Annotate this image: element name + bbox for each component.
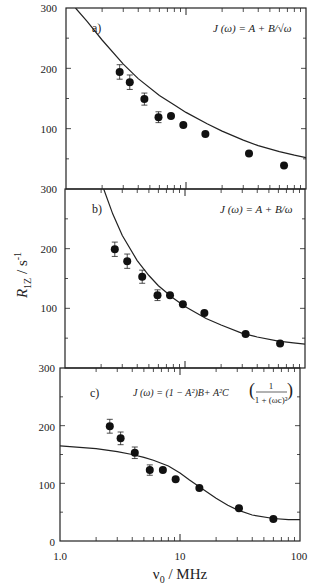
panel-c-formula: J (ω) = (1 − A²)B+ A²C	[133, 387, 229, 399]
ytick-c-100: 100	[39, 479, 56, 491]
fit-curve	[60, 446, 300, 520]
ytick-a-300: 300	[41, 2, 58, 14]
panel-c-paren-right: )	[287, 380, 293, 401]
panel-b-label: b)	[92, 202, 102, 216]
x-axis-title: ν0 / MHz	[153, 566, 208, 585]
xtick-100: 100	[291, 550, 308, 562]
data-point	[245, 149, 253, 157]
data-point	[117, 434, 125, 442]
data-point	[195, 484, 203, 492]
ytick-c-200: 200	[39, 421, 56, 433]
panel-c-frac-num: 1	[269, 381, 274, 391]
data-point	[166, 291, 174, 299]
ytick-b-100: 100	[41, 302, 58, 314]
data-point	[242, 330, 250, 338]
data-point	[138, 273, 146, 281]
data-point	[106, 422, 114, 430]
ytick-a-100: 100	[41, 123, 58, 135]
data-point	[126, 78, 134, 86]
data-point	[201, 130, 209, 138]
data-point	[111, 245, 119, 253]
data-point	[123, 257, 131, 265]
data-point	[131, 449, 139, 457]
panel-c-frac-den: 1 + (ωc)²	[255, 395, 288, 405]
data-point	[276, 340, 284, 348]
panel-c-label: c)	[90, 386, 99, 400]
xtick-10: 10	[175, 550, 187, 562]
data-point	[179, 121, 187, 129]
panel-a-label: a)	[92, 21, 101, 35]
panel-a-formula: J (ω) = A + B/√ω	[213, 22, 292, 35]
data-point	[179, 300, 187, 308]
data-point	[269, 515, 277, 523]
data-point	[146, 466, 154, 474]
data-point	[154, 291, 162, 299]
data-point	[140, 95, 148, 103]
panel-b-formula: J (ω) = A + B/ω	[220, 203, 293, 216]
chart-panels	[60, 8, 306, 541]
data-point	[172, 475, 180, 483]
data-point	[280, 161, 288, 169]
ytick-b-200: 200	[41, 243, 58, 255]
ytick-c-300: 300	[39, 362, 56, 374]
data-point	[155, 113, 163, 121]
data-point	[167, 112, 175, 120]
data-point	[200, 309, 208, 317]
data-point	[235, 504, 243, 512]
xtick-1: 1.0	[53, 550, 67, 562]
data-point	[116, 68, 124, 76]
plot-frame	[66, 8, 306, 189]
y-axis-title: R1Z / s-1	[12, 252, 33, 299]
data-point	[159, 466, 167, 474]
panel-a	[66, 8, 306, 189]
chart-figure: a) J (ω) = A + B/√ω b) J (ω) = A + B/ω c…	[0, 0, 319, 585]
ytick-c-0: 0	[50, 536, 56, 548]
ytick-b-300: 300	[41, 183, 58, 195]
ytick-a-200: 200	[41, 63, 58, 75]
